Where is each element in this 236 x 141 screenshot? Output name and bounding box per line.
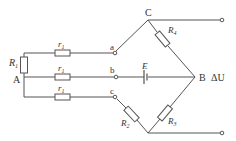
label-R4: R4	[167, 25, 177, 36]
circuit-svg: R1 A r1 r1 r1 a b c C R4 E B ΔU R2 R3	[0, 0, 236, 141]
resistor-r1-mid	[55, 74, 70, 80]
label-R3: R3	[167, 116, 177, 127]
wire-a-C	[116, 20, 148, 51]
label-a: a	[110, 42, 114, 52]
label-r1-top: r1	[58, 39, 65, 50]
label-C: C	[145, 7, 152, 18]
label-B: B	[199, 72, 206, 83]
label-R1: R1	[8, 57, 18, 69]
label-A: A	[13, 74, 21, 85]
resistor-r1-bot	[55, 94, 70, 100]
label-b: b	[110, 65, 115, 75]
terminal-out-bottom	[220, 131, 224, 135]
label-c: c	[110, 86, 114, 96]
circuit-diagram: R1 A r1 r1 r1 a b c C R4 E B ΔU R2 R3	[0, 0, 236, 141]
label-r1-bot: r1	[58, 83, 65, 94]
battery-E	[144, 70, 147, 84]
terminal-b	[114, 75, 118, 79]
label-R2: R2	[120, 118, 130, 129]
resistor-R1	[21, 57, 28, 73]
label-delta-U: ΔU	[211, 72, 225, 83]
resistor-r1-top	[55, 50, 70, 56]
label-r1-mid: r1	[58, 63, 65, 74]
label-E: E	[141, 61, 148, 71]
terminal-out-top	[220, 18, 224, 22]
